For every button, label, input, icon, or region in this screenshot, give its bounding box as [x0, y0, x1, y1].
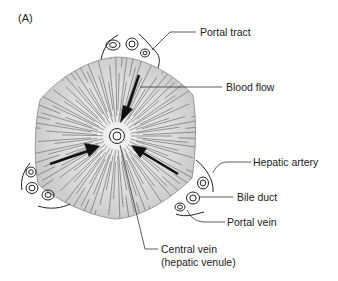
panel-label: (A) — [18, 12, 33, 24]
central-vein — [110, 129, 125, 144]
liver-lobule-diagram — [0, 0, 338, 281]
label-hepatic-artery: Hepatic artery — [253, 156, 318, 168]
label-hepatic-venule: (hepatic venule) — [161, 256, 236, 268]
label-blood-flow: Blood flow — [226, 81, 274, 93]
label-central-vein: Central vein — [161, 243, 217, 255]
label-portal-vein: Portal vein — [227, 216, 277, 228]
label-bile-duct: Bile duct — [237, 191, 277, 203]
label-portal-tract: Portal tract — [200, 26, 251, 38]
